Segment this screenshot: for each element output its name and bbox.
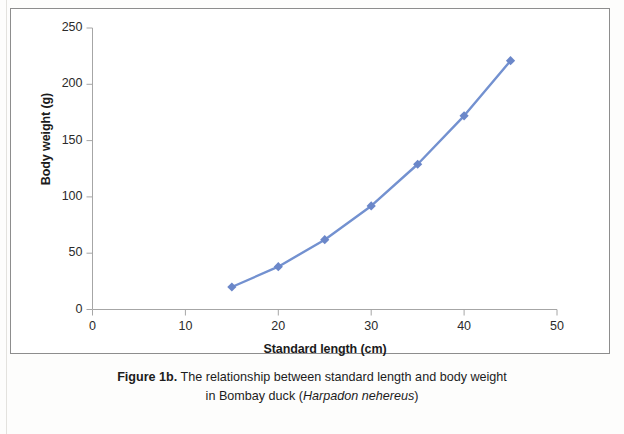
y-tick-label: 250: [43, 20, 83, 34]
figure-caption-text: The relationship between standard length…: [177, 370, 507, 384]
x-tick-label: 40: [444, 319, 484, 333]
y-tick-label: 100: [43, 189, 83, 203]
figure-caption: Figure 1b. The relationship between stan…: [28, 368, 596, 406]
y-tick-label: 0: [43, 302, 83, 316]
figure-caption-line2-prefix: in Bombay duck (: [206, 389, 303, 403]
figure-caption-label: Figure 1b.: [117, 370, 177, 384]
x-tick-label: 20: [258, 319, 298, 333]
chart-plot-area: Body weight (g) Standard length (cm) 050…: [0, 0, 624, 360]
x-axis-title: Standard length (cm): [93, 342, 557, 356]
scanned-page: Body weight (g) Standard length (cm) 050…: [0, 0, 624, 434]
y-axis-ticks: [87, 28, 93, 310]
series-line: [232, 61, 511, 287]
x-axis-ticks: [93, 310, 558, 316]
x-tick-label: 0: [73, 319, 113, 333]
y-tick-label: 50: [43, 245, 83, 259]
x-tick-label: 10: [165, 319, 205, 333]
series-markers: [227, 56, 515, 292]
x-tick-label: 30: [351, 319, 391, 333]
figure-caption-line2-suffix: ): [414, 389, 418, 403]
x-tick-label: 50: [537, 319, 577, 333]
figure-caption-species: Harpadon nehereus: [303, 389, 414, 403]
chart-svg: [0, 0, 624, 360]
y-tick-label: 150: [43, 133, 83, 147]
data-point-marker: [227, 282, 236, 291]
y-tick-label: 200: [43, 76, 83, 90]
